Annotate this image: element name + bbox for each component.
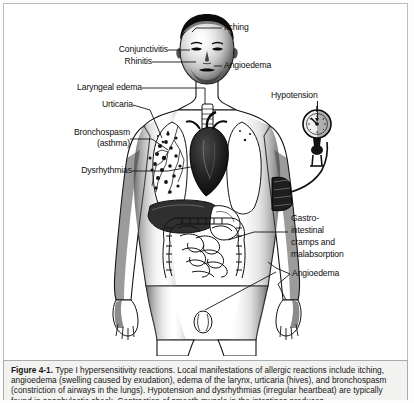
label-hypotension: Hypotension <box>271 90 318 100</box>
caption-line-4: anaphylactic shock. Contraction of smoot… <box>43 396 324 400</box>
label-gi-line1: Gastro- <box>291 213 319 223</box>
label-conjunctivitis: Conjunctivitis <box>18 44 168 54</box>
label-bronchospasm: Bronchospasm <box>10 127 130 137</box>
label-dysrhythmias: Dysrhythmias <box>12 165 132 175</box>
label-angioedema-hand: Angioedema <box>292 268 339 278</box>
figure-caption-box: Figure 4-1. Type I hypersensitivity reac… <box>3 360 408 400</box>
label-gi-line3: cramps and <box>291 237 335 247</box>
figure-number: Figure 4-1. <box>11 365 53 375</box>
groin <box>194 311 212 333</box>
label-laryngeal-edema: Laryngeal edema <box>12 82 142 92</box>
label-itching: Itching <box>224 22 249 32</box>
label-urticaria: Urticaria <box>12 99 133 109</box>
hypotension-arrow-icon <box>315 118 319 122</box>
right-hand <box>276 300 301 340</box>
label-angioedema-face: Angioedema <box>224 60 271 70</box>
caption-line-2: angioedema (swelling caused by exudation… <box>11 375 386 385</box>
label-gi-line4: malabsorption <box>291 249 344 259</box>
liver <box>148 200 220 233</box>
figure-caption-text: Figure 4-1. Type I hypersensitivity reac… <box>4 361 407 400</box>
left-hand <box>113 300 138 340</box>
figure-container: Conjunctivitis Rhinitis Laryngeal edema … <box>0 0 414 403</box>
label-rhinitis: Rhinitis <box>18 56 152 66</box>
label-gi-line2: intestinal <box>291 225 324 235</box>
bp-cuff <box>272 177 292 211</box>
caption-line-1: Type I hypersensitivity reactions. Local… <box>55 365 384 375</box>
illustration-area: Conjunctivitis Rhinitis Laryngeal edema … <box>0 0 414 356</box>
label-bronchospasm-asthma: (asthma) <box>10 138 130 148</box>
